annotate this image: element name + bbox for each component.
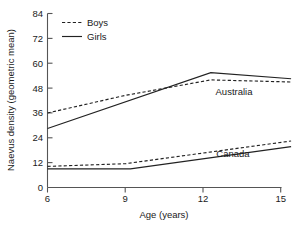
x-axis-title: Age (years)	[139, 209, 188, 220]
y-tick-label-48: 48	[32, 83, 43, 94]
annotation-australia: Australia	[216, 86, 254, 97]
annotation-canada: Canada	[216, 148, 250, 159]
y-tick-label-72: 72	[32, 33, 43, 44]
y-tick-label-12: 12	[32, 157, 43, 168]
x-tick-label-12: 12	[198, 193, 209, 204]
x-tick-label-15: 15	[275, 193, 286, 204]
series-canada-girls	[48, 147, 292, 169]
y-axis-title: Naevus density (geometric mean)	[5, 29, 16, 171]
series-australia-girls	[48, 73, 292, 129]
legend-label-girls: Girls	[87, 31, 107, 42]
y-tick-label-24: 24	[32, 132, 43, 143]
chart-legend: Boys Girls	[62, 17, 108, 42]
y-tick-label-36: 36	[32, 107, 43, 118]
y-tick-label-84: 84	[32, 8, 43, 19]
series-canada-boys	[48, 141, 292, 166]
chart-figure: 84 72 60 48 36 24 12 0 6 9 12 15 Age (ye…	[0, 0, 296, 232]
x-tick-label-6: 6	[45, 193, 50, 204]
y-tick-label-60: 60	[32, 58, 43, 69]
chart-plot-area: 84 72 60 48 36 24 12 0 6 9 12 15 Age (ye…	[0, 0, 296, 232]
x-tick-label-9: 9	[123, 193, 128, 204]
legend-label-boys: Boys	[87, 17, 108, 28]
y-tick-label-0: 0	[38, 182, 43, 193]
series-australia-boys	[48, 80, 292, 113]
